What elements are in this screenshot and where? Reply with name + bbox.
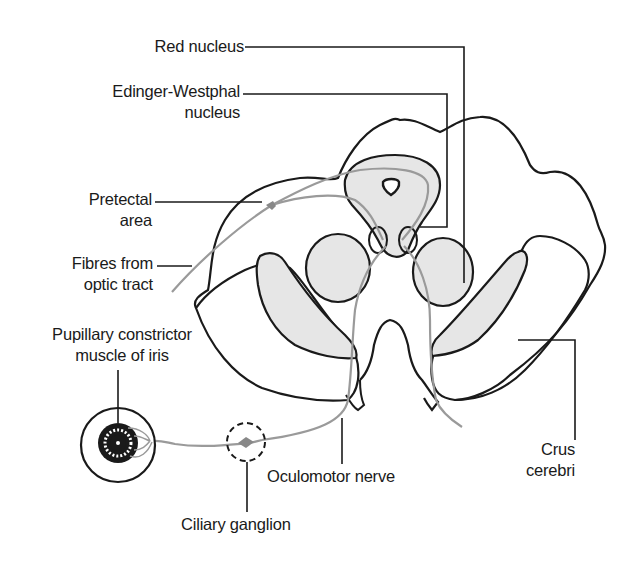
label-pupillary-line2: muscle of iris	[34, 345, 210, 366]
label-optic-tract-line2: optic tract	[72, 274, 153, 295]
label-pupillary-constrictor: Pupillary constrictor muscle of iris	[34, 324, 210, 366]
label-pretectal-line1: Pretectal	[89, 189, 152, 210]
label-ciliary-ganglion: Ciliary ganglion	[181, 514, 291, 535]
label-edinger-westphal-line1: Edinger-Westphal	[112, 81, 240, 102]
label-fibres-optic-tract: Fibres from optic tract	[72, 253, 153, 295]
left-red-nucleus	[306, 234, 370, 302]
label-crus-line1: Crus	[526, 439, 575, 460]
label-oculomotor-nerve: Oculomotor nerve	[267, 466, 395, 487]
label-edinger-westphal-line2: nucleus	[112, 102, 240, 123]
label-optic-tract-line1: Fibres from	[72, 253, 153, 274]
label-crus-cerebri: Crus cerebri	[526, 439, 575, 481]
label-edinger-westphal: Edinger-Westphal nucleus	[112, 81, 240, 123]
label-red-nucleus: Red nucleus	[154, 36, 244, 57]
label-pupillary-line1: Pupillary constrictor	[34, 324, 210, 345]
label-crus-line2: cerebri	[526, 460, 575, 481]
ganglion-synapse-icon	[238, 437, 254, 448]
central-tegmentum-outline	[360, 320, 438, 410]
label-pretectal-line2: area	[89, 210, 152, 231]
label-pretectal-area: Pretectal area	[89, 189, 152, 231]
